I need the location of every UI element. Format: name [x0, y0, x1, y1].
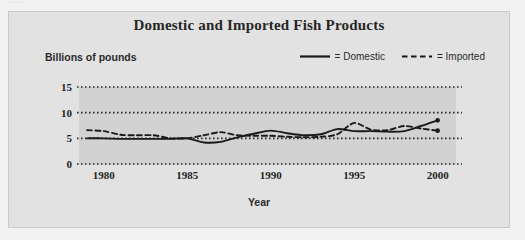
legend-label-imported: = Imported	[437, 51, 485, 62]
endpoint-markers	[435, 118, 440, 133]
x-tick-label: 1990	[260, 169, 282, 181]
plot-area: 051015 19801985199019952000	[79, 87, 456, 164]
data-series-layer	[87, 120, 438, 142]
figure-panel: Domestic and Imported Fish Products Bill…	[8, 11, 510, 228]
x-tick-label: 1985	[176, 169, 198, 181]
chart-title: Domestic and Imported Fish Products	[9, 17, 509, 34]
legend-entry-imported: = Imported	[402, 51, 485, 62]
y-tick-label: 10	[61, 107, 72, 119]
y-tick-label: 15	[61, 81, 72, 93]
x-tick-label: 1995	[343, 169, 365, 181]
x-tick-label: 2000	[427, 169, 449, 181]
scan-cutoff-header: .......	[8, 0, 338, 8]
dashed-line-icon	[402, 53, 432, 60]
legend-label-domestic: = Domestic	[335, 51, 385, 62]
y-tick-label: 0	[67, 158, 73, 170]
chart-plot	[79, 87, 456, 164]
legend-entry-domestic: = Domestic	[300, 51, 385, 62]
y-tick-label: 5	[67, 132, 73, 144]
solid-line-icon	[300, 53, 330, 60]
x-axis-title: Year	[9, 196, 509, 208]
y-axis-title: Billions of pounds	[45, 51, 137, 63]
x-tick-label: 1980	[93, 169, 115, 181]
chart-legend: = Domestic = Imported	[300, 51, 485, 62]
